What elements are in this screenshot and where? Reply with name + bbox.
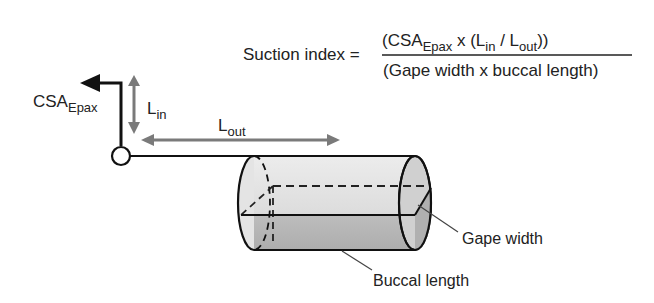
formula-numerator: (CSAEpax x (Lin / Lout)) [382, 31, 548, 54]
suction-index-diagram: Suction index = (CSAEpax x (Lin / Lout))… [0, 0, 654, 303]
buccal-cylinder [238, 156, 431, 250]
l-out-label: Lout [218, 116, 246, 139]
arrow-left-icon [80, 74, 100, 92]
buccal-length-label: Buccal length [373, 272, 469, 289]
pivot-joint [112, 147, 130, 165]
csa-epax-label: CSAEpax [33, 92, 98, 115]
l-in-label: Lin [147, 99, 167, 122]
formula-lhs: Suction index = [243, 45, 360, 64]
l-out-arrow: Lout [141, 116, 340, 146]
gape-width-label: Gape width [462, 230, 543, 247]
formula: Suction index = (CSAEpax x (Lin / Lout))… [243, 31, 632, 80]
buccal-length-leader [342, 251, 372, 270]
l-in-arrow: Lin [128, 75, 167, 134]
formula-denominator: (Gape width x buccal length) [383, 61, 598, 80]
csa-epax-lever: CSAEpax [33, 74, 121, 146]
